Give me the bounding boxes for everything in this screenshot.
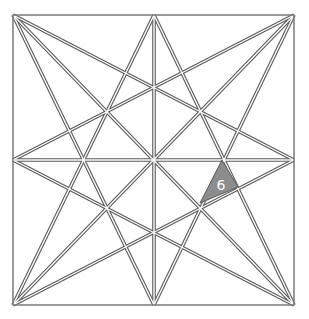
line-cores [13,15,294,305]
geometric-figure: 6 [0,0,309,319]
region-label-6: 6 [217,177,226,193]
